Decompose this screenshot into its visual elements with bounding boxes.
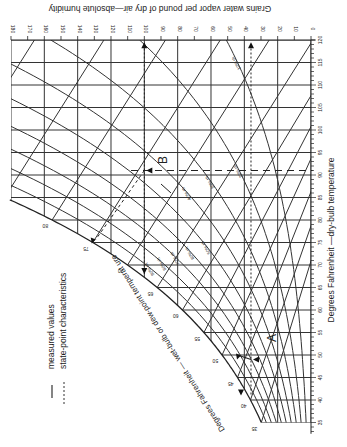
dry-bulb-tick-label: 115 (317, 58, 323, 66)
humidity-tick-label: 130 (93, 25, 99, 34)
curve-axis-title: Degrees Fahrenheit — wet-bulb or dew-poi… (109, 253, 227, 434)
dry-bulb-tick-label: 120 (317, 36, 323, 45)
humidity-tick-label: 140 (77, 25, 83, 34)
dry-bulb-tick-label: 45 (317, 375, 323, 381)
humidity-tick-label: 30 (260, 26, 266, 32)
saturation-tick-label: 35 (252, 426, 258, 432)
point-b-measured-dash (161, 184, 171, 193)
humidity-tick-label: 180 (10, 25, 16, 34)
dry-bulb-tick-label: 75 (317, 240, 323, 246)
humidity-tick-label: 110 (127, 25, 133, 33)
point-b-arrow-drybulb (146, 168, 152, 174)
humidity-tick-label: 170 (27, 25, 33, 34)
point-a-arrow-drybulb (253, 357, 259, 363)
wet-bulb-line (0, 0, 119, 175)
dry-bulb-tick-label: 90 (317, 172, 323, 178)
dry-bulb-tick-label: 60 (317, 307, 323, 313)
rh-label: 60% rh (184, 245, 196, 260)
relative-humidity-curves: 10% rh20% rh30% rh40% rh50% rh60% rh70% … (5, 40, 306, 432)
dry-bulb-tick-label: 40 (317, 397, 323, 403)
legend-measured-label: measured values (46, 304, 56, 369)
saturation-tick-label: 75 (83, 246, 89, 252)
rh-label: 10% rh (230, 55, 242, 70)
rh-label: 30% rh (204, 175, 216, 190)
dry-bulb-tick-label: 80 (317, 217, 323, 223)
dry-bulb-tick-label: 100 (317, 126, 323, 135)
humidity-tick-label: 150 (60, 25, 66, 34)
chart-canvas: 10% rh20% rh30% rh40% rh50% rh60% rh70% … (0, 0, 347, 447)
saturation-tick-label: 40 (241, 403, 247, 409)
rh-curve (9, 148, 280, 432)
humidity-tick-label: 160 (43, 25, 49, 34)
legend-state-label: state-point characteristics (58, 273, 68, 369)
psychrometric-chart: 10% rh20% rh30% rh40% rh50% rh60% rh70% … (0, 0, 347, 447)
dry-bulb-tick-label: 35 (317, 420, 323, 426)
humidity-tick-label: 60 (210, 26, 216, 32)
point-b-label: B (156, 156, 170, 164)
saturation-tick-label: 50 (212, 358, 218, 364)
saturation-tick-label: 45 (228, 381, 234, 387)
saturation-tick-label: 60 (173, 313, 179, 319)
saturation-tick-label: 65 (147, 291, 153, 297)
rh-clip (5, 40, 306, 432)
humidity-tick-label: 70 (193, 26, 199, 32)
humidity-tick-label: 80 (177, 26, 183, 32)
dry-bulb-tick-label: 105 (317, 103, 323, 112)
humidity-tick-label: 100 (143, 25, 149, 34)
humidity-tick-label: 40 (243, 26, 249, 32)
humidity-tick-label: 90 (160, 26, 166, 32)
point-b-wetbulb-line (96, 171, 145, 240)
rh-label: 80% rh (156, 256, 168, 271)
rh-curve (8, 63, 293, 432)
saturation-tick-label: 80 (42, 223, 48, 229)
right-axis-title: Degrees Fahrenheit —dry-bulb temperature (326, 157, 336, 322)
point-b-arrow-bottom (141, 268, 147, 274)
dry-bulb-tick-label: 85 (317, 195, 323, 201)
rh-label: 40% rh (180, 186, 192, 201)
humidity-tick-label: 120 (110, 25, 116, 34)
humidity-tick-label: 10 (293, 26, 299, 32)
point-a-arrow-bottom (238, 390, 244, 396)
dry-bulb-tick-label: 70 (317, 262, 323, 268)
point-a-label: A (265, 334, 279, 342)
humidity-tick-label: 0 (310, 28, 316, 31)
axes: 0102030405060708090100110120130140150160… (10, 25, 323, 434)
top-axis-title: Grains water vapor per pound of dry air—… (48, 4, 271, 14)
dry-bulb-tick-label: 55 (317, 330, 323, 336)
dry-bulb-tick-label: 65 (317, 285, 323, 291)
saturation-tick-label: 55 (194, 336, 200, 342)
dry-bulb-tick-label: 95 (317, 150, 323, 156)
humidity-tick-label: 50 (227, 26, 233, 32)
legend: measured values state-point characterist… (46, 273, 68, 406)
state-points (91, 42, 313, 395)
point-a-arrow-top (248, 42, 254, 48)
dry-bulb-tick-label: 50 (317, 352, 323, 358)
humidity-tick-label: 20 (277, 26, 283, 32)
dry-bulb-tick-label: 110 (317, 81, 323, 89)
